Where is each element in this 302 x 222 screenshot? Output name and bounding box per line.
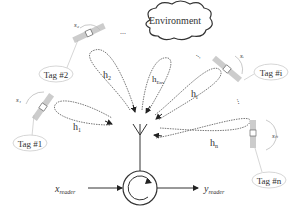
tag-i: sᵢ Tag #i [212, 52, 288, 82]
ellipsis-top: ... [120, 27, 126, 36]
channel-henv-label: hEnv [152, 74, 165, 85]
tag-n: sₙ Tag #n [250, 120, 286, 188]
tag-1-label: Tag #1 [18, 139, 43, 149]
lobe-h1 [54, 101, 112, 125]
x-reader-label: xreader [54, 183, 76, 195]
channel-hn-label: hn [210, 137, 218, 149]
tag-1-state: s₁ [16, 96, 21, 104]
antenna-icon [133, 124, 147, 175]
backscatter-diagram: Environment h2 hEnv hi h1 hn xread [0, 0, 302, 222]
tag-2: s₂ Tag #2 [39, 21, 106, 82]
tag-1: s₁ Tag #1 [13, 92, 54, 151]
ellipsis-right: ... [194, 50, 204, 61]
y-reader-label: yreader [203, 183, 225, 195]
tag-2-state: s₂ [74, 21, 80, 29]
tag-i-state: sᵢ [240, 52, 244, 60]
tag-2-label: Tag #2 [44, 70, 69, 80]
tag-n-state: sₙ [272, 132, 278, 140]
environment-label: Environment [149, 15, 201, 26]
channel-h2-label: h2 [103, 69, 111, 81]
channel-h1-label: h1 [73, 121, 81, 133]
ellipsis-lower-right: ... [235, 97, 246, 106]
lobe-hi [155, 68, 221, 120]
tag-n-label: Tag #n [257, 176, 282, 186]
lobe-h2 [90, 50, 135, 110]
tag-i-label: Tag #i [260, 68, 283, 78]
lobe-hn [156, 118, 250, 138]
circulator-icon [123, 171, 157, 205]
environment-cloud: Environment [146, 1, 212, 40]
channel-hi-label: hi [191, 88, 198, 100]
